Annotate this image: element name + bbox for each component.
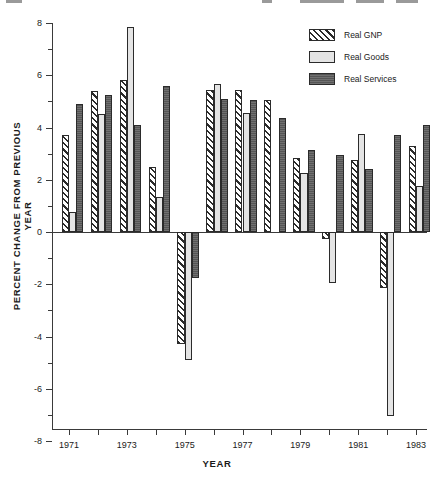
chart-legend: Real GNPReal GoodsReal Services bbox=[309, 26, 429, 92]
bar-goods-1972 bbox=[98, 114, 105, 232]
y-tick-label: 8 bbox=[37, 18, 42, 28]
x-tick-mark bbox=[416, 429, 417, 435]
bar-goods-1977 bbox=[243, 113, 250, 232]
bar-services-1971 bbox=[76, 104, 83, 232]
bar-gnp-1973 bbox=[120, 80, 127, 232]
bar-services-1976 bbox=[221, 99, 228, 232]
bar-services-1978 bbox=[279, 118, 286, 232]
bar-goods-1980 bbox=[329, 232, 336, 283]
x-tick-label: 1975 bbox=[175, 440, 195, 450]
legend-label-services: Real Services bbox=[344, 74, 396, 84]
bar-services-1982 bbox=[394, 135, 401, 232]
y-tick-label: 6 bbox=[37, 70, 42, 80]
bar-services-1981 bbox=[365, 169, 372, 232]
x-tick-mark bbox=[69, 429, 70, 435]
bar-goods-1982 bbox=[387, 232, 394, 416]
y-tick-label: 0 bbox=[37, 227, 42, 237]
x-tick-mark bbox=[98, 429, 99, 435]
y-tick-label: 2 bbox=[37, 175, 42, 185]
y-tick-label: -2 bbox=[34, 279, 42, 289]
bar-gnp-1980 bbox=[322, 232, 329, 239]
y-axis-title: PERCENT CHANGE FROM PREVIOUS YEAR bbox=[11, 116, 33, 316]
x-tick-mark bbox=[358, 429, 359, 435]
bar-services-1980 bbox=[336, 155, 343, 232]
bar-gnp-1979 bbox=[293, 158, 300, 232]
y-tick-mark bbox=[46, 441, 52, 442]
bar-goods-1976 bbox=[214, 84, 221, 232]
x-tick-mark bbox=[387, 429, 388, 435]
legend-item-services: Real Services bbox=[309, 70, 429, 88]
x-tick-mark bbox=[127, 429, 128, 435]
bar-services-1977 bbox=[250, 100, 257, 232]
bar-goods-1979 bbox=[300, 173, 307, 232]
bar-gnp-1971 bbox=[62, 135, 69, 232]
x-tick-label: 1979 bbox=[290, 440, 310, 450]
x-tick-label: 1981 bbox=[348, 440, 368, 450]
legend-item-gnp: Real GNP bbox=[309, 26, 429, 44]
bar-gnp-1978 bbox=[264, 100, 271, 232]
y-tick-label: -8 bbox=[34, 436, 42, 446]
x-tick-label: 1977 bbox=[232, 440, 252, 450]
x-tick-mark bbox=[185, 429, 186, 435]
x-tick-label: 1971 bbox=[59, 440, 79, 450]
bar-gnp-1972 bbox=[91, 91, 98, 232]
bar-goods-1971 bbox=[69, 212, 76, 232]
legend-swatch-gnp-icon bbox=[309, 29, 335, 41]
bar-gnp-1974 bbox=[149, 167, 156, 232]
y-tick-label: -4 bbox=[34, 332, 42, 342]
legend-label-goods: Real Goods bbox=[344, 52, 389, 62]
legend-label-gnp: Real GNP bbox=[344, 30, 382, 40]
scan-artifact-strip bbox=[0, 0, 434, 4]
bar-services-1972 bbox=[105, 95, 112, 232]
y-tick-label: 4 bbox=[37, 123, 42, 133]
x-tick-label: 1973 bbox=[117, 440, 137, 450]
x-tick-mark bbox=[300, 429, 301, 435]
legend-item-goods: Real Goods bbox=[309, 48, 429, 66]
bar-goods-1983 bbox=[416, 186, 423, 232]
x-tick-mark bbox=[271, 429, 272, 435]
bar-goods-1974 bbox=[156, 197, 163, 232]
x-tick-label: 1983 bbox=[406, 440, 426, 450]
legend-swatch-services-icon bbox=[309, 73, 335, 85]
x-tick-mark bbox=[214, 429, 215, 435]
bar-gnp-1981 bbox=[351, 160, 358, 232]
x-tick-mark bbox=[243, 429, 244, 435]
bar-services-1975 bbox=[192, 232, 199, 278]
bar-goods-1975 bbox=[185, 232, 192, 360]
bar-services-1973 bbox=[134, 125, 141, 232]
legend-swatch-goods-icon bbox=[309, 51, 335, 63]
x-axis-line bbox=[52, 429, 427, 430]
bar-services-1974 bbox=[163, 86, 170, 232]
x-tick-mark bbox=[329, 429, 330, 435]
x-tick-mark bbox=[156, 429, 157, 435]
bar-gnp-1983 bbox=[409, 146, 416, 232]
bar-goods-1973 bbox=[127, 27, 134, 232]
bar-gnp-1982 bbox=[380, 232, 387, 288]
bar-gnp-1975 bbox=[177, 232, 184, 344]
bar-services-1979 bbox=[308, 150, 315, 232]
bar-gnp-1976 bbox=[206, 90, 213, 232]
chart-figure: PERCENT CHANGE FROM PREVIOUS YEAR -8-6-4… bbox=[0, 0, 434, 483]
bar-goods-1981 bbox=[358, 134, 365, 232]
bar-gnp-1977 bbox=[235, 90, 242, 232]
bar-services-1983 bbox=[423, 125, 430, 232]
y-tick-label: -6 bbox=[34, 384, 42, 394]
x-axis-title: YEAR bbox=[0, 458, 434, 469]
